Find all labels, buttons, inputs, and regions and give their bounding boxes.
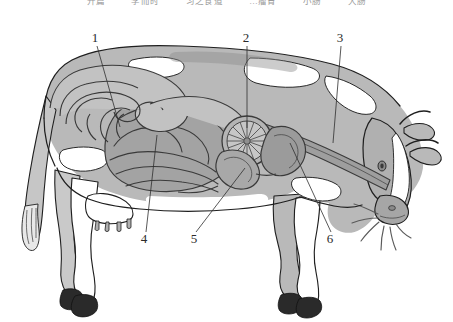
hoof-front-near	[296, 297, 321, 318]
label-number-1: 1	[92, 30, 99, 45]
label-number-2: 2	[243, 30, 250, 45]
cow-udder	[86, 194, 133, 224]
label-number-3: 3	[337, 30, 344, 45]
label-number-5: 5	[191, 231, 198, 246]
hide-patch-flank	[59, 147, 107, 171]
label-number-4: 4	[141, 231, 148, 246]
cow-body-group	[22, 46, 441, 318]
cow-nostril	[389, 206, 396, 211]
figure-page: 开篇 学而时 习之食道 …瘤胃 小肠 大肠	[0, 0, 453, 322]
cow-pupil	[380, 164, 383, 169]
cow-digestive-diagram: 1 2 3 4 5 6	[0, 0, 453, 322]
cow-front-leg-near	[294, 196, 320, 301]
hoof-rear-near	[71, 295, 97, 317]
cow-tail-switch	[22, 204, 39, 251]
label-number-6: 6	[327, 231, 334, 246]
